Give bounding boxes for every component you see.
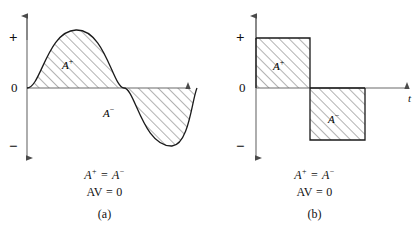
area-positive-label: A+ bbox=[62, 57, 73, 71]
panel-a-equality-line: A+ = A− bbox=[0, 167, 209, 183]
area-positive-label-text: A bbox=[273, 60, 280, 72]
panel-a-eq-sup2: − bbox=[120, 167, 125, 176]
figure-container: + 0 − A+ A− A+ = A− AV = 0 (a) bbox=[0, 0, 419, 232]
area-negative-label-text: A bbox=[103, 107, 110, 119]
panel-a-caption: A+ = A− AV = 0 bbox=[0, 167, 209, 200]
area-positive-label-sign: + bbox=[69, 57, 74, 66]
panel-b-caption: A+ = A− AV = 0 bbox=[210, 167, 419, 200]
y-axis-positive-label: + bbox=[9, 30, 18, 45]
panel-b-tag: (b) bbox=[210, 207, 419, 222]
y-axis-zero-label: 0 bbox=[239, 81, 246, 94]
area-negative-fill bbox=[124, 88, 197, 146]
panel-a-tag: (a) bbox=[0, 207, 209, 222]
area-negative-label-sign: − bbox=[335, 111, 340, 120]
panel-b-eq-a2: A bbox=[322, 168, 330, 182]
area-negative-label-text: A bbox=[328, 113, 335, 125]
y-axis-negative-label: − bbox=[236, 139, 245, 154]
sine-wave-plot bbox=[0, 0, 209, 175]
panel-b-eq-sup2: − bbox=[330, 167, 335, 176]
y-axis-positive-label: + bbox=[236, 30, 245, 45]
y-axis-zero-label: 0 bbox=[11, 81, 18, 94]
panel-b-eq-a1: A bbox=[294, 168, 302, 182]
area-negative-label-sign: − bbox=[110, 105, 115, 114]
panel-a-eq-operator: = bbox=[97, 168, 112, 182]
area-negative-label: A− bbox=[103, 105, 114, 119]
panel-a-sine-wave: + 0 − A+ A− A+ = A− AV = 0 (a) bbox=[0, 0, 209, 232]
x-axis-time-label: t bbox=[408, 93, 411, 104]
y-axis-negative-label: − bbox=[9, 139, 18, 154]
panel-b-eq-operator: = bbox=[307, 168, 322, 182]
panel-a-average-line: AV = 0 bbox=[0, 185, 209, 200]
area-positive-fill bbox=[27, 30, 124, 88]
area-positive-label: A+ bbox=[273, 58, 284, 72]
area-positive-label-text: A bbox=[62, 59, 69, 71]
area-negative-label: A− bbox=[328, 111, 339, 125]
area-positive-label-sign: + bbox=[280, 58, 285, 67]
panel-b-average-line: AV = 0 bbox=[210, 185, 419, 200]
panel-b-equality-line: A+ = A− bbox=[210, 167, 419, 183]
panel-a-eq-a1: A bbox=[84, 168, 92, 182]
panel-a-eq-a2: A bbox=[112, 168, 120, 182]
panel-b-square-wave: + 0 − t A+ A− A+ = A− AV = 0 (b) bbox=[210, 0, 419, 232]
